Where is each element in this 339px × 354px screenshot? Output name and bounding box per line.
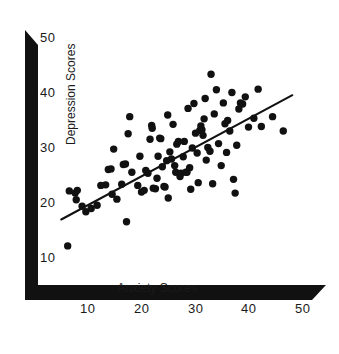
data-point: [224, 117, 231, 124]
y-tick-label-40: 40: [40, 85, 55, 100]
x-tick-label-20: 20: [134, 301, 149, 316]
data-point: [245, 123, 252, 130]
y-axis-bar: [25, 30, 38, 285]
regression-trendline: [61, 95, 292, 219]
data-point: [211, 110, 218, 117]
data-point: [157, 135, 164, 142]
data-point: [190, 100, 197, 107]
data-point: [74, 187, 81, 194]
data-point: [123, 218, 130, 225]
data-point: [269, 113, 276, 120]
x-tick-label-50: 50: [295, 301, 310, 316]
data-point: [161, 183, 168, 190]
data-point: [113, 195, 120, 202]
data-point: [213, 86, 220, 93]
data-point: [107, 165, 114, 172]
data-point: [186, 164, 193, 171]
data-point: [165, 194, 172, 201]
data-point: [140, 187, 147, 194]
y-tick-label-10: 10: [40, 250, 55, 265]
data-point: [122, 160, 129, 167]
data-point: [195, 179, 202, 186]
plot-canvas: [0, 0, 339, 354]
y-tick-label-50: 50: [40, 30, 55, 45]
data-point: [73, 196, 80, 203]
data-point: [146, 136, 153, 143]
x-tick-label-40: 40: [241, 301, 256, 316]
data-point: [220, 99, 227, 106]
data-point: [215, 140, 222, 147]
data-point: [110, 145, 117, 152]
data-point: [64, 242, 71, 249]
data-point: [200, 115, 207, 122]
data-point: [184, 105, 191, 112]
data-point-group: [64, 71, 287, 250]
data-point: [206, 148, 213, 155]
data-point: [149, 125, 156, 132]
data-point: [128, 169, 135, 176]
data-point: [169, 121, 176, 128]
data-point: [258, 123, 265, 130]
data-point: [102, 181, 109, 188]
data-point: [207, 71, 214, 78]
data-point: [233, 142, 240, 149]
data-point: [231, 189, 238, 196]
data-point: [136, 153, 143, 160]
data-point: [254, 85, 261, 92]
data-point: [166, 148, 173, 155]
data-point: [152, 185, 159, 192]
data-point: [230, 176, 237, 183]
data-point: [134, 182, 141, 189]
data-point: [124, 130, 131, 137]
y-tick-label-30: 30: [40, 140, 55, 155]
data-point: [126, 113, 133, 120]
data-point: [239, 100, 246, 107]
data-point: [203, 156, 210, 163]
x-tick-label-10: 10: [80, 301, 95, 316]
data-point: [228, 89, 235, 96]
data-point: [201, 95, 208, 102]
data-point: [154, 153, 161, 160]
data-point: [193, 149, 200, 156]
data-point: [199, 132, 206, 139]
data-point: [280, 127, 287, 134]
data-point: [242, 93, 249, 100]
y-axis-title: Depression Scores: [64, 44, 78, 145]
data-point: [209, 180, 216, 187]
data-point: [153, 175, 160, 182]
data-point: [187, 186, 194, 193]
x-axis-title: Anxiety Scores: [117, 281, 197, 295]
data-point: [223, 149, 230, 156]
x-tick-label-30: 30: [188, 301, 203, 316]
data-point: [218, 162, 225, 169]
data-point: [181, 138, 188, 145]
data-point: [164, 111, 171, 118]
scatter-plot-figure: 50 40 30 20 10 10 20 30 40 50 Depression…: [0, 0, 339, 354]
y-tick-label-20: 20: [40, 195, 55, 210]
data-point: [171, 162, 178, 169]
